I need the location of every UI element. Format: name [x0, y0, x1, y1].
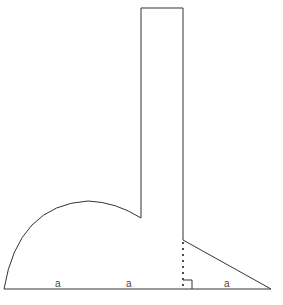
right-angle-marker [183, 280, 192, 289]
label-a-1: a [55, 278, 61, 289]
shape-outline [4, 8, 271, 289]
label-a-2: a [126, 278, 132, 289]
geometric-figure: a a a [0, 0, 283, 305]
label-a-3: a [224, 278, 230, 289]
